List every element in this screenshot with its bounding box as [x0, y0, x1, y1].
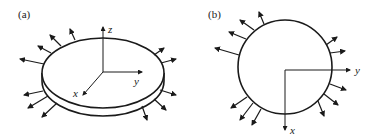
- panel-b: (b) y x: [208, 8, 360, 136]
- x-axis-label: x: [289, 124, 295, 136]
- z-axis-label: z: [107, 23, 113, 35]
- panel-a: (a) z y x: [18, 8, 176, 120]
- figure-canvas: (a) z y x: [0, 0, 379, 140]
- y-axis-label: y: [354, 64, 360, 76]
- x-axis-label: x: [72, 87, 78, 99]
- panel-a-label: (a): [18, 8, 31, 21]
- panel-b-label: (b): [208, 8, 221, 21]
- y-axis-label: y: [133, 75, 139, 87]
